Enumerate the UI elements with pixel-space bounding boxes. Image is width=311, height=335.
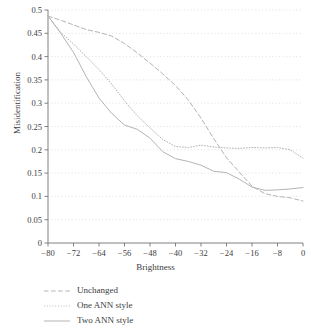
x-tick-label: −56	[112, 248, 138, 258]
legend-line-swatch-dotted	[44, 302, 70, 310]
y-tick-label: 0.2	[8, 145, 42, 155]
data-series-group	[48, 16, 303, 201]
y-tick-label: 0.4	[8, 52, 42, 62]
x-tick-label: −32	[188, 248, 214, 258]
legend-item: Two ANN style	[44, 313, 133, 328]
legend-label: Unchanged	[77, 286, 118, 295]
y-tick-label: 0.05	[8, 215, 42, 225]
legend-line-swatch-solid	[44, 317, 70, 325]
x-tick-label: −72	[61, 248, 87, 258]
x-axis-label: Brightness	[0, 262, 311, 272]
legend-line-swatch-dashed	[44, 287, 70, 295]
x-tick-label: −80	[35, 248, 61, 258]
y-tick-label: 0.45	[8, 28, 42, 38]
legend-label: One ANN style	[77, 301, 133, 310]
legend-item: Unchanged	[44, 283, 133, 298]
x-tick-label: −64	[86, 248, 112, 258]
chart-legend: UnchangedOne ANN styleTwo ANN style	[44, 283, 133, 328]
series-line-2	[48, 16, 303, 190]
y-tick-label: 0.5	[8, 5, 42, 15]
x-tick-label: −48	[137, 248, 163, 258]
y-tick-label: 0	[8, 238, 42, 248]
legend-item: One ANN style	[44, 298, 133, 313]
y-tick-label: 0.25	[8, 122, 42, 132]
y-tick-label: 0.1	[8, 191, 42, 201]
legend-label: Two ANN style	[77, 316, 133, 325]
y-tick-label: 0.15	[8, 168, 42, 178]
gridlines	[48, 10, 303, 220]
chart-figure: Misidentification Brightness 00.050.10.1…	[0, 0, 311, 335]
series-line-0	[48, 16, 303, 201]
x-tick-label: −24	[214, 248, 240, 258]
axis-ticks	[45, 10, 304, 247]
x-tick-label: 0	[290, 248, 311, 258]
x-tick-label: −40	[163, 248, 189, 258]
x-tick-label: −8	[265, 248, 291, 258]
y-tick-label: 0.35	[8, 75, 42, 85]
series-line-1	[48, 16, 303, 158]
y-tick-label: 0.3	[8, 98, 42, 108]
x-tick-label: −16	[239, 248, 265, 258]
axis-spines	[48, 10, 303, 243]
